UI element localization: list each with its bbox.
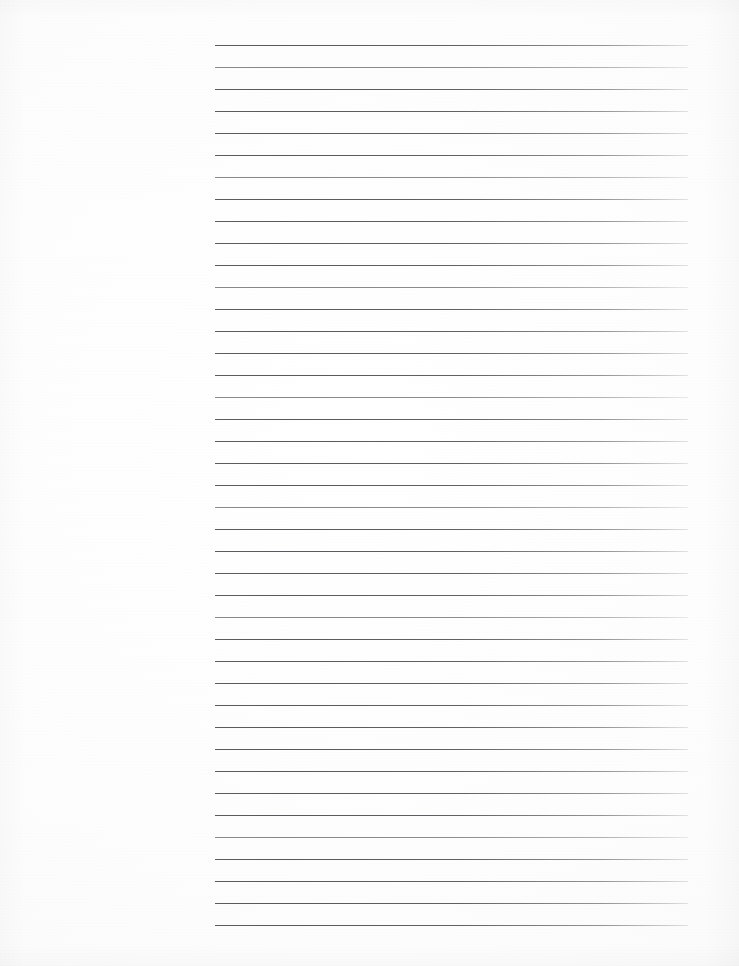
rule-line	[215, 287, 688, 288]
rule-line	[215, 309, 688, 310]
rule-line	[215, 331, 688, 332]
rule-line	[215, 837, 688, 838]
rule-line	[215, 683, 688, 684]
rule-line	[215, 199, 688, 200]
rule-line	[215, 221, 688, 222]
rule-line	[215, 111, 688, 112]
rule-line	[215, 353, 688, 354]
rule-line	[215, 463, 688, 464]
rule-line	[215, 375, 688, 376]
rule-line	[215, 485, 688, 486]
rule-line	[215, 67, 688, 68]
rule-line	[215, 793, 688, 794]
rule-line	[215, 265, 688, 266]
rule-line	[215, 45, 688, 46]
rule-line	[215, 749, 688, 750]
rule-line	[215, 903, 688, 904]
ruled-writing-area[interactable]	[215, 0, 688, 966]
rule-line	[215, 177, 688, 178]
rule-line	[215, 595, 688, 596]
rule-line	[215, 617, 688, 618]
rule-line	[215, 397, 688, 398]
rule-line	[215, 243, 688, 244]
rule-line	[215, 133, 688, 134]
rule-line	[215, 507, 688, 508]
rule-line	[215, 419, 688, 420]
rule-line	[215, 771, 688, 772]
rule-line	[215, 925, 688, 926]
rule-line	[215, 661, 688, 662]
left-margin	[0, 0, 215, 966]
rule-line	[215, 155, 688, 156]
rule-line	[215, 441, 688, 442]
rule-line	[215, 529, 688, 530]
rule-line	[215, 705, 688, 706]
rule-line	[215, 89, 688, 90]
rule-line	[215, 727, 688, 728]
rule-line	[215, 573, 688, 574]
rule-line	[215, 881, 688, 882]
scanned-page	[0, 0, 739, 966]
rule-line	[215, 859, 688, 860]
rule-line	[215, 551, 688, 552]
rule-line	[215, 639, 688, 640]
rule-line	[215, 815, 688, 816]
